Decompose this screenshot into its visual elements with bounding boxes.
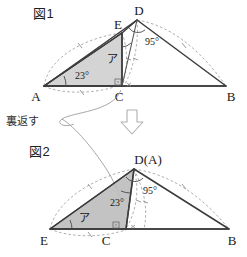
figure1-angle-dot-c (117, 81, 118, 82)
figure2-group: D(A) E C B 23° 95° ア (40, 152, 237, 248)
figure1-label-c: C (115, 89, 124, 104)
figure1-tick-base (80, 90, 84, 95)
figure2-label-b: B (228, 233, 237, 248)
flip-curve-icon (60, 90, 121, 126)
figure-canvas: 図1 図2 裏返す (0, 0, 247, 257)
figure1-label-b: B (227, 89, 236, 104)
figure1-tick-left (78, 43, 82, 48)
figure2-angle-mark-c-right (131, 225, 135, 228)
figure2-label-c: C (102, 233, 111, 248)
figure2-label-da: D(A) (134, 152, 161, 167)
figure1-angle-arc-e (122, 43, 131, 47)
figure2-angle-label-95: 95° (143, 185, 157, 196)
figure2-angle-dot-c (115, 224, 116, 225)
figure1-group: A B C D E 23° 95° ア (31, 3, 235, 104)
figure1-unknown-angle-label: ア (107, 53, 118, 65)
figure2-tick-cd2 (143, 201, 148, 203)
figure2-label-e: E (40, 233, 48, 248)
down-arrow-icon (121, 110, 143, 134)
figure1-label-a: A (31, 89, 41, 104)
figure2-guide-arc-under-left (50, 229, 128, 236)
figure1-tick-right (182, 43, 186, 48)
figure2-tick-cd (136, 200, 141, 202)
figure1-label-e: E (114, 17, 122, 32)
figure2-guide-arc-cd2 (134, 169, 146, 229)
figure2-tick-left (88, 184, 92, 189)
figure1-label-d: D (134, 3, 143, 18)
geometry-diagram: A B C D E 23° 95° ア (0, 0, 247, 257)
figure2-unknown-angle-label: ア (79, 212, 90, 224)
figure2-tick-base (88, 232, 92, 237)
figure1-angle-label-d: 95° (145, 36, 159, 47)
figure1-angle-label-a: 23° (75, 70, 89, 81)
figure2-angle-label-23: 23° (110, 197, 124, 208)
